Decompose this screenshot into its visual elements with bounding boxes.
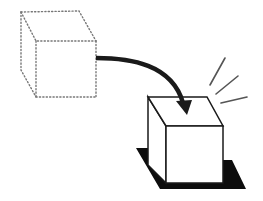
diagram-svg (0, 0, 263, 201)
dotted-cube-icon (21, 11, 96, 97)
diagram-canvas: Illustration of a dotted (ghost) cube mo… (0, 0, 263, 201)
emphasis-rays-icon (210, 58, 247, 103)
